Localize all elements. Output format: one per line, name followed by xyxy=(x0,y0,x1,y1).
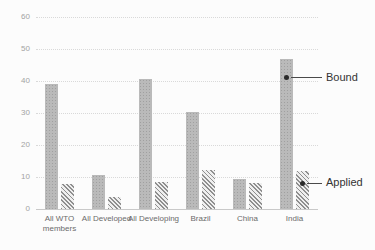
y-tick-label-30: 30 xyxy=(8,108,30,118)
gridline-50 xyxy=(36,49,318,50)
applied-label: Applied xyxy=(326,176,363,188)
gridline-10 xyxy=(36,177,318,178)
gridline-60 xyxy=(36,17,318,18)
bar-china-bound xyxy=(233,179,246,209)
y-tick-label-20: 20 xyxy=(8,140,30,150)
bar-india-applied xyxy=(296,171,309,209)
bar-all-wto-members-applied xyxy=(61,184,74,209)
tariff-bar-chart: 0102030405060All WTO membersAll Develope… xyxy=(0,0,375,250)
y-tick-label-40: 40 xyxy=(8,76,30,86)
y-tick-label-50: 50 xyxy=(8,44,30,54)
bar-brazil-bound xyxy=(186,112,199,209)
gridline-40 xyxy=(36,81,318,82)
gridline-20 xyxy=(36,145,318,146)
bar-all-developed-applied xyxy=(108,197,121,209)
bar-brazil-applied xyxy=(202,170,215,209)
bound-leader-line xyxy=(291,77,323,78)
bar-all-developing-applied xyxy=(155,182,168,209)
applied-marker-dot xyxy=(300,181,305,186)
applied-leader-line xyxy=(307,183,323,184)
x-category-label-india: India xyxy=(267,214,323,224)
y-tick-label-60: 60 xyxy=(8,12,30,22)
plot-area: 0102030405060All WTO membersAll Develope… xyxy=(0,0,375,250)
bar-all-developing-bound xyxy=(139,79,152,209)
bar-all-wto-members-bound xyxy=(45,84,58,209)
y-tick-label-10: 10 xyxy=(8,172,30,182)
bar-india-bound xyxy=(280,59,293,209)
gridline-30 xyxy=(36,113,318,114)
bar-china-applied xyxy=(249,183,262,209)
bar-all-developed-bound xyxy=(92,175,105,209)
y-tick-label-0: 0 xyxy=(8,204,30,214)
bound-label: Bound xyxy=(326,71,358,83)
gridline-0 xyxy=(36,209,318,210)
